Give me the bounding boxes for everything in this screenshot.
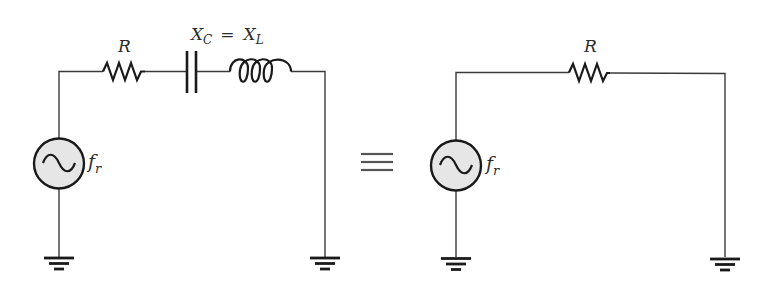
ground-icon [310,258,340,269]
ground-icon [44,258,74,269]
ac-source-icon [34,139,84,189]
resistor-icon [569,64,610,81]
right-wire-top-left [456,73,569,141]
left-circuit: R XC=XL fr [34,24,340,269]
resistor-label: R [583,36,597,56]
resistor-label: R [117,36,131,56]
source-label: fr [86,150,102,176]
source-label: fr [484,152,500,178]
right-wire-top-right [610,73,725,257]
resistor-icon [103,63,145,80]
circuit-diagram: R XC=XL fr [0,0,771,290]
left-wire-right [291,72,325,258]
ac-source-icon [431,141,481,191]
reactance-label: XC=XL [189,24,264,47]
ground-icon [710,259,740,270]
left-wire-top-left [59,72,103,139]
ground-icon [441,259,471,270]
equivalence-icon [361,154,393,170]
inductor-icon [230,59,291,82]
right-circuit: R fr [431,36,740,270]
